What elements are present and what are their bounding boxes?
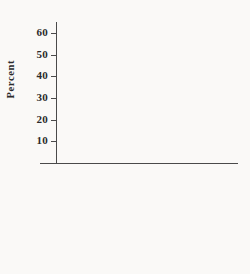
- plot-area: [56, 22, 232, 164]
- bar-chart-figure: Percent 605040302010: [0, 0, 250, 274]
- y-axis-tick-label: 40: [26, 69, 48, 81]
- y-axis-tick-label: 30: [26, 91, 48, 103]
- y-axis-tick-label: 60: [26, 26, 48, 38]
- y-axis-tick-label: 20: [26, 113, 48, 125]
- y-axis-tick-label: 10: [26, 134, 48, 146]
- y-axis-title: Percent: [5, 60, 19, 98]
- y-axis-tick-label: 50: [26, 48, 48, 60]
